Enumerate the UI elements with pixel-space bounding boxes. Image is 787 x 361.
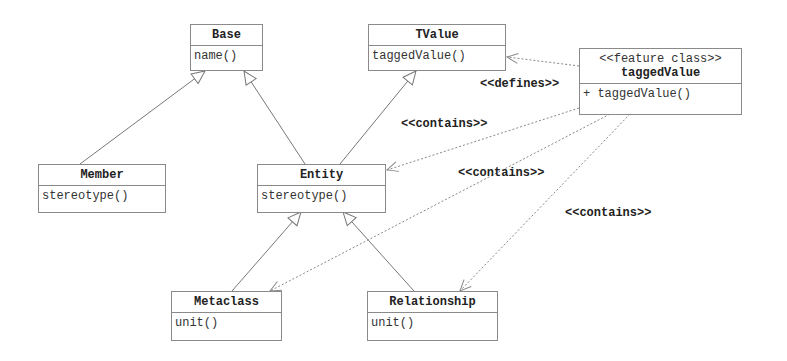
edge-entity-to-base [244, 71, 305, 164]
class-relationship-header: Relationship [368, 292, 497, 313]
class-taggedvalue-header: <<feature class>> taggedValue [580, 49, 741, 84]
label-defines: <<defines>> [480, 77, 559, 91]
class-operation: taggedValue() [369, 46, 505, 66]
class-operation: name() [191, 46, 262, 66]
class-operation: unit() [172, 313, 281, 333]
class-entity-header: Entity [258, 165, 385, 186]
class-name: Relationship [372, 295, 493, 310]
class-member[interactable]: Member stereotype() [38, 164, 166, 213]
class-member-header: Member [39, 165, 165, 186]
class-operation: unit() [368, 313, 497, 333]
edge-metaclass-to-entity [232, 212, 301, 291]
class-taggedvalue[interactable]: <<feature class>> taggedValue + taggedVa… [579, 48, 742, 115]
class-name: Base [195, 28, 258, 43]
class-tvalue-header: TValue [369, 25, 505, 46]
edge-relationship-to-entity [343, 212, 414, 291]
class-stereotype: <<feature class>> [584, 52, 737, 66]
class-name: Metaclass [176, 295, 277, 310]
class-relationship[interactable]: Relationship unit() [367, 291, 498, 341]
class-name: Entity [262, 168, 381, 183]
class-metaclass-header: Metaclass [172, 292, 281, 313]
edge-defines [507, 57, 579, 66]
class-base-header: Base [191, 25, 262, 46]
label-contains-entity: <<contains>> [401, 117, 487, 131]
class-metaclass[interactable]: Metaclass unit() [171, 291, 282, 341]
edge-member-to-base [80, 71, 205, 164]
label-contains-relationship: <<contains>> [565, 206, 651, 220]
class-operation: + taggedValue() [580, 84, 741, 104]
class-entity[interactable]: Entity stereotype() [257, 164, 386, 213]
class-name: Member [43, 168, 161, 183]
class-name: TValue [373, 28, 501, 43]
class-tvalue[interactable]: TValue taggedValue() [368, 24, 506, 71]
edge-contains-relationship [460, 114, 630, 291]
class-name: taggedValue [584, 66, 737, 81]
class-operation: stereotype() [39, 186, 165, 206]
label-contains-metaclass: <<contains>> [458, 166, 544, 180]
class-base[interactable]: Base name() [190, 24, 263, 71]
class-operation: stereotype() [258, 186, 385, 206]
